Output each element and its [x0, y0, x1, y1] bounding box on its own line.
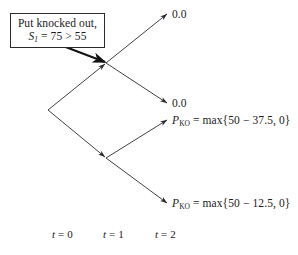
- knockout-callout-box: Put knocked out, S1 = 75 > 55: [10, 13, 105, 48]
- binomial-tree-figure: Put knocked out, S1 = 75 > 55 0.0 0.0 PK…: [0, 0, 298, 255]
- payoff-subscript-4: KO: [179, 202, 190, 211]
- time-axis-label-2: t = 2: [155, 229, 176, 240]
- branch-up-to-terminal-1: [106, 14, 167, 63]
- branch-down-to-terminal-3: [106, 120, 167, 158]
- payoff-expression-3: = max{50 − 37.5, 0}: [190, 114, 290, 126]
- terminal-payoff-2: 0.0: [172, 98, 187, 110]
- terminal-payoff-1: 0.0: [172, 9, 187, 21]
- payoff-subscript-3: KO: [179, 119, 190, 128]
- time-value-0: = 0: [55, 228, 73, 240]
- time-value-2: = 2: [158, 228, 176, 240]
- callout-relation: = 75 > 55: [38, 30, 86, 42]
- terminal-payoff-3: PKO = max{50 − 37.5, 0}: [172, 115, 290, 127]
- payoff-expression-4: = max{50 − 12.5, 0}: [190, 197, 290, 209]
- time-value-1: = 1: [106, 228, 124, 240]
- terminal-payoff-4: PKO = max{50 − 12.5, 0}: [172, 198, 290, 210]
- branch-down-to-terminal-4: [106, 158, 167, 203]
- callout-line-2: S1 = 75 > 55: [28, 30, 86, 44]
- time-axis-label-0: t = 0: [52, 229, 73, 240]
- callout-line-1: Put knocked out,: [18, 17, 97, 30]
- time-axis-label-1: t = 1: [103, 229, 124, 240]
- callout-pointer-arrow: [63, 46, 105, 62]
- branch-root-to-down: [48, 110, 105, 157]
- branch-up-to-terminal-2: [106, 63, 167, 103]
- branch-root-to-up: [48, 64, 105, 110]
